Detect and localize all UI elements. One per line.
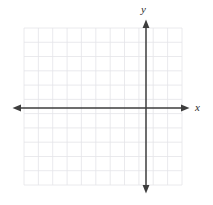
grid-vertical-lines [24,28,182,185]
x-axis-arrow-left [13,105,22,112]
x-axis-label: x [195,102,200,113]
x-axis-arrow-right [181,105,190,112]
coordinate-plane-figure: y x [0,0,213,205]
y-axis-label: y [141,4,146,15]
y-axis-arrow-up [143,20,150,29]
plot-area [0,0,213,205]
y-axis-arrow-down [143,185,150,194]
grid-horizontal-lines [24,28,182,185]
